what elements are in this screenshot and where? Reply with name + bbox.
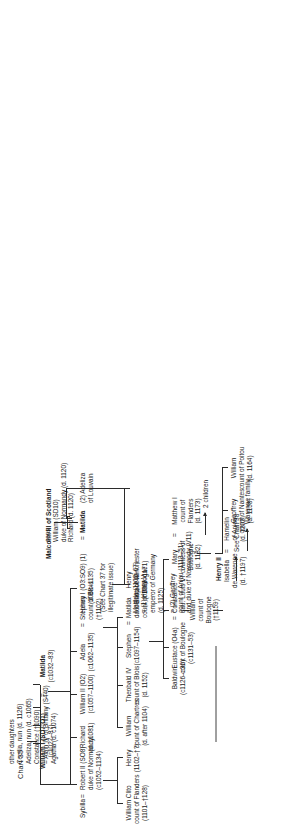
matilda-marriage-1-title: emperor of Germany	[149, 531, 157, 613]
node-henry-ii: Henry II	[215, 557, 223, 581]
other-daughter-adeliza: Adeliza, nun (d. c1065)	[25, 685, 33, 764]
tick-matilda-empress	[124, 584, 130, 585]
node-richard-1120: Richard (d. 1120)	[67, 463, 75, 542]
marriage-eq-stephen-matilda: =	[125, 621, 132, 625]
node-eustace: Eustace (O4a) count of Boulogne (c1131–5…	[171, 622, 194, 674]
tick-william-clito	[117, 803, 123, 804]
tick-henry-1102	[117, 757, 123, 758]
tick-william-poitou	[222, 467, 228, 468]
label-two-children: 2 children	[202, 480, 210, 508]
sons-header: sons	[44, 463, 52, 542]
other-daughters-riser	[40, 784, 70, 785]
william-boulogne-stem	[183, 610, 189, 611]
marriage-eq-isabella: =	[223, 549, 230, 553]
tick-william-chartres	[117, 727, 123, 728]
node-sybilla: Sybilla	[79, 799, 87, 818]
tick-henry-winchester	[117, 617, 123, 618]
tick-william-ii	[70, 694, 77, 695]
node-william-chartres: William count of Chartres (d. after 1104…	[125, 704, 148, 748]
other-daughter-agatha: Agatha (d. c1074)	[50, 685, 58, 764]
william-boulogne-drop	[213, 610, 223, 611]
robert-drop	[103, 780, 117, 781]
node-matilda-name: Matilda	[39, 642, 47, 690]
tick-adela	[70, 651, 77, 652]
genealogy-chart-canvas: Chart 35 William I (SD7:O1) (c1027–87) =…	[0, 0, 299, 826]
node-mary: Mary countess of Boulogne (d. 1182)	[171, 538, 202, 576]
tick-baldwin	[163, 678, 169, 679]
siblings-bar-geoffrey-william	[222, 468, 223, 554]
other-daughter-alain: = Alain IV of Brittany (S440)	[42, 685, 50, 764]
rotated-page: Chart 35 William I (SD7:O1) (c1027–87) =…	[0, 0, 299, 826]
adela-children-bar	[117, 618, 118, 728]
tick-robert	[70, 784, 77, 785]
adela-drop	[103, 627, 117, 628]
node-henry-i: Henry I (O3:SO9) (1)	[79, 554, 87, 612]
tick-geoffrey-nantes	[222, 510, 228, 511]
node-henry-i-ref: (1068–1135)	[87, 568, 95, 604]
node-constance: Constance dau. Louis VI	[171, 576, 187, 613]
node-william-sd10-title: duke of Normandy (d. 1120)	[60, 463, 68, 542]
node-matilda-ref: (c1032–83)	[47, 642, 55, 690]
node-william-sd10: William (SD10)	[52, 463, 60, 542]
other-daughter-cecilia: Cecilia, nun (d. 1126)	[16, 685, 24, 764]
marriage-eq-henry-i: =	[79, 536, 86, 540]
node-theobald-iv: Theobald IV count of Blois (d. 1152)	[125, 664, 148, 706]
arrow-two-children	[205, 513, 206, 535]
node-richard: Richard (d. c1081)	[79, 716, 95, 758]
tick-stephen-king	[117, 647, 123, 648]
matilda-marriage-1: = (1) Henry V	[140, 531, 148, 613]
node-matilda-scotland: Matilda	[79, 511, 87, 533]
sibling-bar-g2	[70, 589, 71, 785]
tick-theobald	[117, 685, 123, 686]
tick-sons	[124, 488, 130, 489]
henry-i-drop	[112, 584, 124, 585]
matilda-marriage-1-ref: (d. 1125)	[157, 531, 165, 613]
tick-henry-ii-sib	[215, 553, 222, 554]
marriage-eq-eustace: =	[171, 616, 178, 620]
tick-mary	[163, 559, 169, 560]
node-matthew-flanders: Matthew I count of Flanders (d. 1173)	[171, 492, 202, 530]
sons-group: sons William (SD10) duke of Normandy (d.…	[44, 463, 75, 542]
node-geoffrey-nantes: Geoffreycount of Nantes(d. 1158)	[230, 488, 253, 534]
tick-richard	[70, 737, 77, 738]
marriage-eq-adela: =	[79, 623, 86, 627]
henry-i-children-bar	[124, 489, 125, 585]
marriage-eq-mary: =	[171, 533, 178, 537]
stephen-drop	[149, 641, 163, 642]
other-daughters-list: other daughters Cecilia, nun (d. 1126) A…	[8, 685, 58, 764]
other-daughter-constance: Constance (†1090)	[33, 685, 41, 764]
marriage-eq-sybilla: =	[79, 794, 86, 798]
other-daughters-header: other daughters	[8, 685, 16, 764]
arrow-see-chart-38	[236, 557, 237, 581]
tick-william-boulogne	[163, 610, 169, 611]
tick-henry-i	[70, 588, 77, 589]
node-william-poitou: Williamcount of Poitou(d. 1164)	[230, 445, 253, 491]
matilda-geoffrey-drop	[197, 553, 211, 554]
node-william-clito: William Clito count of Flanders (1101–†1…	[125, 782, 148, 824]
node-adela: Adela (c1062–1135)	[79, 628, 95, 676]
node-stephen-king: Stephen (c1097–1154)	[125, 626, 141, 666]
robert-children-bar	[117, 758, 118, 804]
stephen-children-bar	[163, 560, 164, 679]
tick-eustace	[163, 647, 169, 648]
node-henry-i-note: (See Chart 37 for illegitimate issue)	[99, 563, 115, 612]
